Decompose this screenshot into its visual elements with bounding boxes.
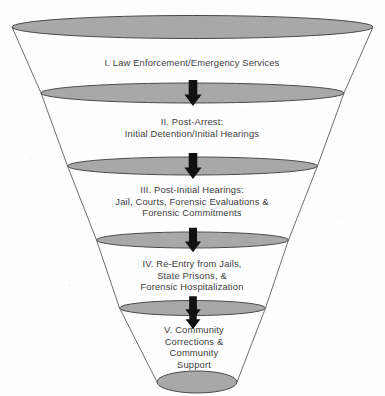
stage-label-post-arrest-initial-detention-hearings: II. Post-Arrest: Initial Detention/Initi… bbox=[62, 116, 322, 139]
cone-line-right-1 bbox=[344, 27, 373, 93]
stage-label-community-corrections-support: V. Community Corrections & Community Sup… bbox=[120, 324, 268, 370]
ring-top bbox=[12, 16, 373, 39]
stage-label-law-enforcement-emergency-services: I. Law Enforcement/Emergency Services bbox=[42, 57, 342, 69]
cone-line-left-1 bbox=[12, 27, 41, 93]
stage-label-post-initial-hearings-jail-courts: III. Post-Initial Hearings: Jail, Courts… bbox=[66, 184, 318, 219]
ring-bottom bbox=[157, 371, 237, 393]
funnel-diagram-page: I. Law Enforcement/Emergency Services II… bbox=[0, 0, 385, 396]
stage-label-re-entry-jails-prisons-hospitalization: IV. Re-Entry from Jails, State Prisons, … bbox=[92, 258, 292, 293]
